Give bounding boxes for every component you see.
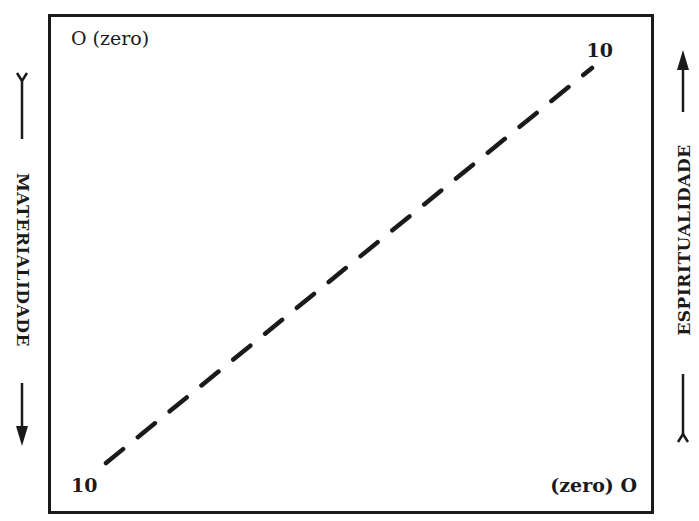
arrow-down-icon <box>16 383 28 446</box>
materialidade-axis-label: MATERIALIDADE <box>14 173 31 347</box>
left-arrow-top-tail-icon <box>17 73 27 139</box>
right-arrow-bottom-tail-icon <box>678 374 688 442</box>
top-right-label: 10 <box>587 41 613 60</box>
espiritualidade-axis-label: ESPIRITUALIDADE <box>676 144 693 335</box>
top-left-label: O (zero) <box>71 29 149 48</box>
bottom-left-label: 10 <box>71 476 97 495</box>
arrow-up-icon <box>677 50 689 112</box>
bottom-right-label: (zero) O <box>550 476 637 495</box>
diagram-frame: O (zero) 10 10 (zero) O <box>48 14 654 514</box>
